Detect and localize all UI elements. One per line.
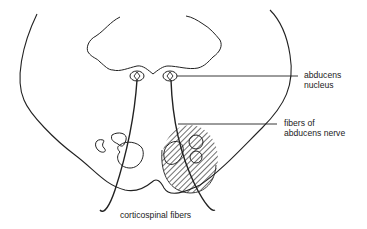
label-abducens-nucleus-line1: abducens	[304, 70, 341, 80]
fourth-ventricle	[87, 16, 221, 74]
diagram-canvas: abducens nucleus fibers of abducens nerv…	[0, 0, 367, 229]
brainstem-drawing	[0, 0, 367, 229]
brainstem-outline	[20, 10, 291, 193]
label-corticospinal-fibers: corticospinal fibers	[120, 210, 191, 220]
abducens-nucleus-left	[130, 71, 144, 81]
label-abducens-nerve-line2: abducens nerve	[284, 128, 345, 138]
corticospinal-fibers-left	[96, 133, 144, 168]
label-abducens-nucleus-line2: nucleus	[304, 80, 334, 90]
abducens-nucleus-right	[163, 71, 177, 81]
label-abducens-nerve-line1: fibers of	[284, 118, 315, 128]
